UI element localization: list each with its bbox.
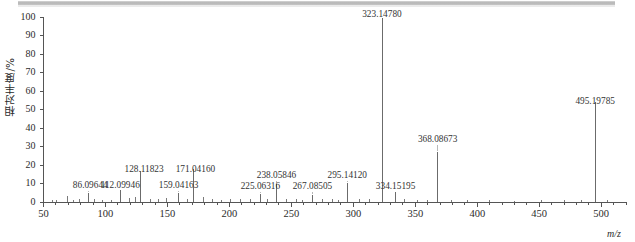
peak-label: 295.14120 bbox=[327, 170, 367, 180]
y-tick-label: 40 bbox=[10, 123, 36, 133]
x-tick-label: 300 bbox=[333, 208, 373, 219]
x-tick-label: 100 bbox=[85, 208, 125, 219]
y-tick-label: 60 bbox=[10, 86, 36, 96]
mass-spectrum-plot: 相对丰度/% m/z 0102030405060708090100 501001… bbox=[0, 0, 635, 242]
spectrum-canvas bbox=[0, 0, 635, 242]
x-tick-label: 150 bbox=[147, 208, 187, 219]
y-tick-label: 70 bbox=[10, 67, 36, 77]
peak-label: 159.04163 bbox=[159, 180, 199, 190]
x-tick-label: 50 bbox=[24, 208, 64, 219]
peak-label: 368.08673 bbox=[418, 134, 458, 144]
x-tick-label: 350 bbox=[395, 208, 435, 219]
y-tick-label: 90 bbox=[10, 30, 36, 40]
y-tick-label: 20 bbox=[10, 160, 36, 170]
peak-label: 238.05846 bbox=[257, 170, 297, 180]
peak-label: 495.19785 bbox=[575, 96, 615, 106]
y-tick-label: 10 bbox=[10, 178, 36, 188]
peak-label: 112.09946 bbox=[101, 180, 140, 190]
x-tick-label: 500 bbox=[581, 208, 621, 219]
y-tick-label: 30 bbox=[10, 141, 36, 151]
x-tick-label: 450 bbox=[519, 208, 559, 219]
x-tick-label: 400 bbox=[457, 208, 497, 219]
peak-label: 225.06316 bbox=[241, 181, 281, 191]
peak-label: 267.08505 bbox=[293, 181, 333, 191]
y-tick-label: 80 bbox=[10, 49, 36, 59]
peak-label: 334.15195 bbox=[376, 181, 416, 191]
y-tick-label: 0 bbox=[10, 197, 36, 207]
y-tick-label: 100 bbox=[10, 12, 36, 22]
peak-label: 171.04160 bbox=[176, 164, 216, 174]
x-tick-label: 200 bbox=[209, 208, 249, 219]
peak-label: 128.11823 bbox=[124, 164, 163, 174]
peak-label: 323.14780 bbox=[362, 9, 402, 19]
x-tick-label: 250 bbox=[271, 208, 311, 219]
y-tick-label: 50 bbox=[10, 104, 36, 114]
